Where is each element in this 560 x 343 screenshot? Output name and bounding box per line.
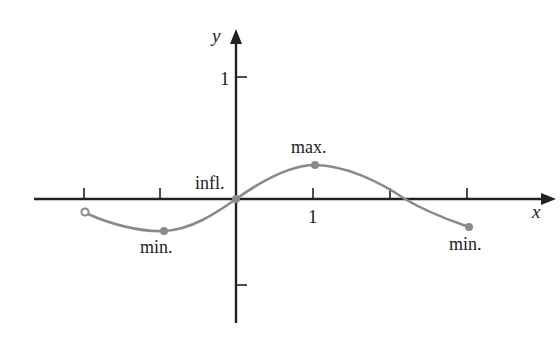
y-ticks — [236, 77, 247, 285]
max-label: max. — [291, 137, 327, 157]
endpoint-min-point — [465, 223, 473, 231]
min-label-left: min. — [140, 237, 173, 257]
local-max-point — [311, 161, 319, 169]
x-ticks — [84, 188, 467, 199]
x-axis-arrow-icon — [541, 193, 556, 205]
function-graph: y x 1 1 min. infl. max. min. — [0, 0, 560, 343]
y-axis-label: y — [210, 25, 221, 46]
infl-label: infl. — [195, 173, 225, 193]
x-axis-label: x — [531, 201, 541, 222]
y-tick-label-1: 1 — [220, 68, 230, 89]
inflection-point — [232, 195, 240, 203]
y-axis-arrow-icon — [230, 29, 242, 44]
x-tick-label-1: 1 — [308, 206, 318, 227]
local-min-point — [160, 227, 168, 235]
min-label-right: min. — [449, 234, 482, 254]
open-endpoint — [81, 208, 88, 215]
